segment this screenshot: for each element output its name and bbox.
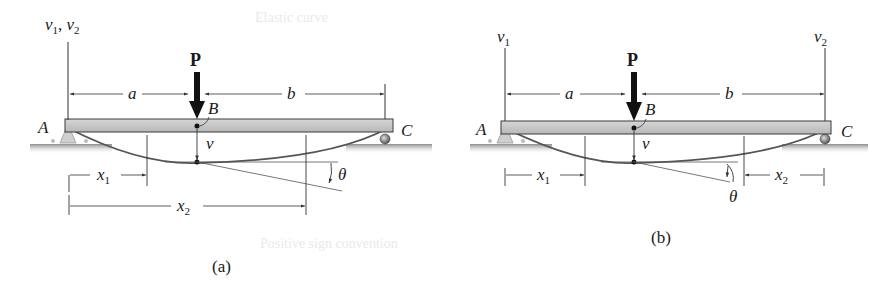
dimension-label-b: b <box>725 84 734 103</box>
beam <box>65 119 393 132</box>
load-label: P <box>627 50 638 70</box>
show-through-text: Elastic curve <box>255 10 328 25</box>
point-b-marker <box>195 124 200 129</box>
point-label-b: B <box>208 99 219 118</box>
deflection-label: v <box>206 134 214 153</box>
coordinate-label-x1: x1 <box>96 165 110 186</box>
ground-left <box>470 144 552 154</box>
roller-support-icon <box>820 134 830 144</box>
elastic-curve <box>68 128 388 163</box>
panel-caption-b: (b) <box>651 228 671 247</box>
roller-support-icon <box>380 134 390 144</box>
dimension-label-a: a <box>565 84 574 103</box>
point-label-c: C <box>841 122 853 141</box>
slope-label: θ <box>729 187 737 206</box>
coordinate-label-x1: x1 <box>536 165 550 186</box>
slope-arc <box>329 163 332 183</box>
ground-left <box>30 144 112 154</box>
point-label-a: A <box>475 120 487 139</box>
axis-label-right: v2 <box>814 27 827 48</box>
slope-label: θ <box>338 165 346 184</box>
load-label: P <box>190 50 201 70</box>
load-arrow-icon <box>626 72 642 121</box>
ground-right <box>346 144 432 154</box>
dimension-label-b: b <box>287 84 296 103</box>
axis-label: v1, v2 <box>45 15 80 36</box>
ground-right <box>782 144 868 154</box>
point-label-a: A <box>37 118 49 137</box>
point-label-b: B <box>645 100 656 119</box>
tangent-line <box>634 162 730 182</box>
tangent-line <box>197 162 342 191</box>
point-label-c: C <box>401 121 413 140</box>
show-through-text: Positive sign convention <box>260 236 398 251</box>
panel-caption-a: (a) <box>212 257 231 276</box>
coordinate-label-x2: x2 <box>774 165 788 186</box>
coordinate-label-x2: x2 <box>176 196 190 217</box>
beam-deflection-figure: Elastic curve Positive sign convention v… <box>0 0 892 296</box>
deflection-label: v <box>642 134 650 153</box>
dimension-label-a: a <box>128 84 137 103</box>
point-b-marker <box>632 126 637 131</box>
axis-label-left: v1 <box>497 27 510 48</box>
beam <box>501 121 831 134</box>
load-arrow-icon <box>189 72 205 119</box>
panel-b: v1 v2 a b P B A C v θ <box>470 27 868 247</box>
